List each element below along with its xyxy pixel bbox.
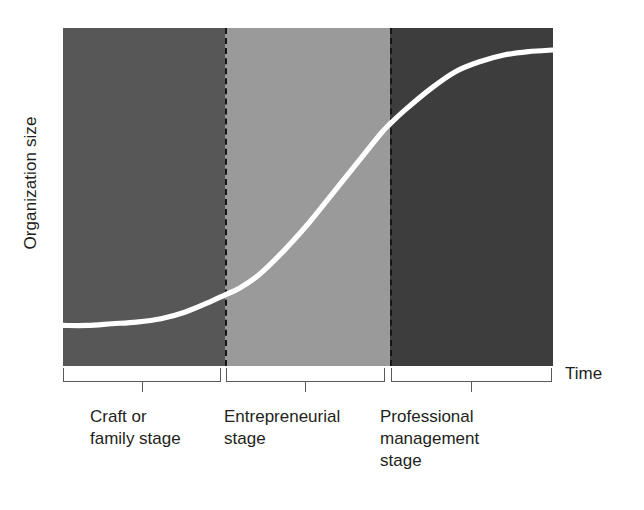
bracket-professional-management (391, 368, 552, 382)
stage-caption-entrepreneurial: Entrepreneurial stage (224, 406, 374, 450)
stage-brackets (63, 368, 555, 394)
bracket-tick-craft-or-family (142, 382, 143, 392)
organization-size-curve (63, 28, 553, 366)
bracket-tick-professional-management (471, 382, 472, 392)
bracket-craft-or-family (63, 368, 221, 382)
organization-lifecycle-chart: Organization size Time Craft or family s… (0, 0, 644, 510)
bracket-tick-entrepreneurial (305, 382, 306, 392)
y-axis-label-text: Organization size (21, 116, 41, 249)
stage-caption-professional-management: Professional management stage (380, 406, 545, 472)
stage-caption-craft-or-family: Craft or family stage (90, 406, 230, 450)
plot-area (63, 28, 553, 366)
bracket-entrepreneurial (226, 368, 385, 382)
y-axis-label: Organization size (0, 0, 62, 366)
x-axis-label: Time (565, 364, 602, 384)
